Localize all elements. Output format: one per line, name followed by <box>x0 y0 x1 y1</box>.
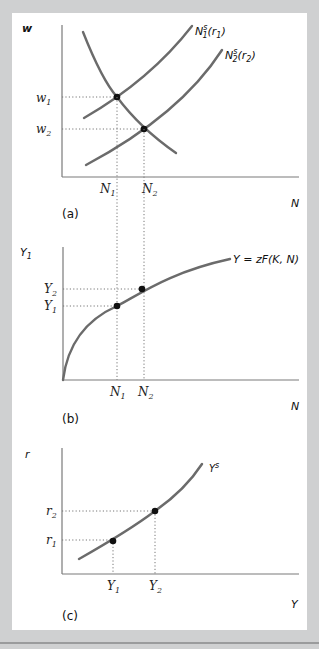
panel-a-tick-w1: w1 <box>36 91 51 107</box>
panel-c-tick-y2: Y2 <box>149 579 162 595</box>
panel-b: Y1 N Y2 Y1 N1 N2 Y = zF(K, N) (b) <box>20 246 299 426</box>
panel-c-tick-r1: r1 <box>46 533 57 549</box>
panel-c-curve-label: Ys <box>209 461 219 474</box>
panel-b-y-axis-label: Y1 <box>20 246 32 261</box>
panel-a: w N w1 w2 N1 N2 Ns1(r1) Ns2(r2) (a) <box>22 22 299 221</box>
panel-a-tick-w2: w2 <box>36 122 51 138</box>
panel-a-labor-demand-curve <box>83 32 176 153</box>
panel-a-tick-n2: N2 <box>141 182 158 198</box>
panel-c-tag: (c) <box>62 609 78 623</box>
panel-b-tick-y1: Y1 <box>44 299 57 315</box>
panel-c-y-axis-label: r <box>25 448 31 461</box>
figure-svg: w N w1 w2 N1 N2 Ns1(r1) Ns2(r2) (a) Y1 N <box>0 0 319 649</box>
panel-b-tick-n2: N2 <box>137 385 154 401</box>
panel-b-production-function-curve <box>63 259 230 380</box>
panel-c-point-1 <box>110 538 117 545</box>
panel-b-x-axis-label: N <box>291 400 299 413</box>
panel-a-tick-n1: N1 <box>99 182 116 198</box>
panel-b-tick-y2: Y2 <box>44 282 57 298</box>
panel-a-x-axis-label: N <box>291 197 299 210</box>
panel-a-y-axis-label: w <box>22 22 33 35</box>
panel-b-tick-n1: N1 <box>109 385 126 401</box>
panel-b-point-2 <box>139 286 146 293</box>
panel-b-tag: (b) <box>62 412 79 426</box>
panel-c-tick-y1: Y1 <box>107 579 120 595</box>
panel-a-labor-supply-1-label: Ns1(r1) <box>195 23 226 40</box>
panel-c-tick-r2: r2 <box>46 504 57 520</box>
panel-c-point-2 <box>152 508 159 515</box>
panel-c-x-axis-label: Y <box>291 598 299 611</box>
panel-a-tag: (a) <box>62 207 79 221</box>
panel-b-curve-label: Y = zF(K, N) <box>233 253 299 266</box>
panel-c: r Y r2 r1 Y1 Y2 Ys (c) <box>25 448 299 623</box>
panel-b-point-1 <box>114 303 121 310</box>
panel-a-labor-supply-2-label: Ns2(r2) <box>225 47 256 64</box>
